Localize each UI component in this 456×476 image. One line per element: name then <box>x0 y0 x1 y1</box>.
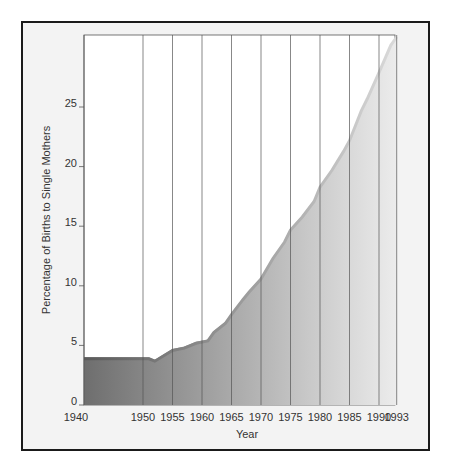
y-tick-label: 25 <box>65 97 77 109</box>
x-tick-label: 1970 <box>249 411 273 423</box>
y-tick-label: 10 <box>65 276 77 288</box>
x-tick-label: 1965 <box>219 411 243 423</box>
x-tick-label: 1940 <box>64 411 88 423</box>
y-tick-label: 15 <box>65 216 77 228</box>
x-tick-label: 1955 <box>160 411 184 423</box>
y-tick-label: 5 <box>71 335 77 347</box>
y-axis: 0510152025 <box>65 35 84 407</box>
x-axis-title: Year <box>236 428 259 440</box>
x-tick-label: 1950 <box>131 411 155 423</box>
y-tick-label: 0 <box>71 395 77 407</box>
y-axis-title: Percentage of Births to Single Mothers <box>40 125 52 314</box>
area-chart: 0510152025 19401950195519601965197019751… <box>0 0 456 476</box>
x-tick-label: 1975 <box>278 411 302 423</box>
x-tick-label: 1980 <box>308 411 332 423</box>
x-tick-label: 1960 <box>190 411 214 423</box>
x-tick-label: 1993 <box>384 411 408 423</box>
x-axis: 1940195019551960196519701975198019851990… <box>64 411 409 423</box>
x-tick-label: 1985 <box>337 411 361 423</box>
y-tick-label: 20 <box>65 157 77 169</box>
